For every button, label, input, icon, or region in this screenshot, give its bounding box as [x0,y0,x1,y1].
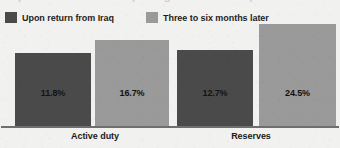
legend-item-three-to-six-months: Three to six months later [146,11,269,24]
bar-value-label: 24.5% [259,88,336,98]
chart-legend: Upon return from Iraq Three to six month… [0,9,340,26]
bar-chart: percent of soldiers reporting mental hea… [0,0,340,148]
bar-value-label: 12.7% [177,88,253,98]
bar-active-duty-upon-return: 11.8% [15,53,91,126]
x-axis-label-active-duty: Active duty [52,131,138,141]
bar-reserves-upon-return: 12.7% [177,50,253,126]
x-axis-label-reserves: Reserves [208,131,294,141]
legend-label-three-to-six-months: Three to six months later [163,13,269,23]
x-axis-line [1,126,339,128]
bar-value-label: 11.8% [15,88,91,98]
bar-reserves-three-to-six-months: 24.5% [259,24,336,126]
legend-swatch-light [146,12,158,23]
bar-value-label: 16.7% [95,88,169,98]
bar-active-duty-three-to-six-months: 16.7% [95,40,169,126]
legend-item-upon-return: Upon return from Iraq [5,11,114,24]
legend-label-upon-return: Upon return from Iraq [22,13,114,23]
legend-swatch-dark [5,12,17,23]
